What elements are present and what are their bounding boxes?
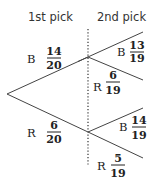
header-first-pick: 1st pick <box>28 10 73 24</box>
outcome-letter: R <box>97 159 106 173</box>
numerator: 14 <box>46 45 62 58</box>
numerator: 13 <box>129 39 144 52</box>
outcome-letter: B <box>117 45 125 59</box>
label-second-rb: B 14 19 <box>119 114 147 142</box>
label-second-rr: R 5 19 <box>97 152 126 180</box>
denominator: 19 <box>131 129 146 142</box>
denominator: 19 <box>129 52 144 65</box>
label-second-bb: B 13 19 <box>117 39 145 65</box>
numerator: 6 <box>109 69 117 82</box>
probability-tree: 1st pick 2nd pick B 14 20 R 6 20 B 13 19… <box>0 0 157 186</box>
header-second-pick: 2nd pick <box>97 10 146 24</box>
outcome-letter: B <box>119 120 127 134</box>
denominator: 19 <box>105 84 120 97</box>
outcome-letter: B <box>27 52 35 66</box>
numerator: 5 <box>114 152 122 165</box>
denominator: 20 <box>46 133 62 146</box>
label-first-b: B 14 20 <box>27 45 62 72</box>
outcome-letter: R <box>93 80 102 94</box>
branch-first-r <box>7 94 88 132</box>
denominator: 20 <box>46 59 62 72</box>
outcome-letter: R <box>27 126 36 140</box>
label-first-r: R 6 20 <box>27 119 62 146</box>
numerator: 6 <box>50 119 58 132</box>
numerator: 14 <box>131 114 147 127</box>
denominator: 19 <box>110 167 125 180</box>
label-second-br: R 6 19 <box>93 69 121 97</box>
